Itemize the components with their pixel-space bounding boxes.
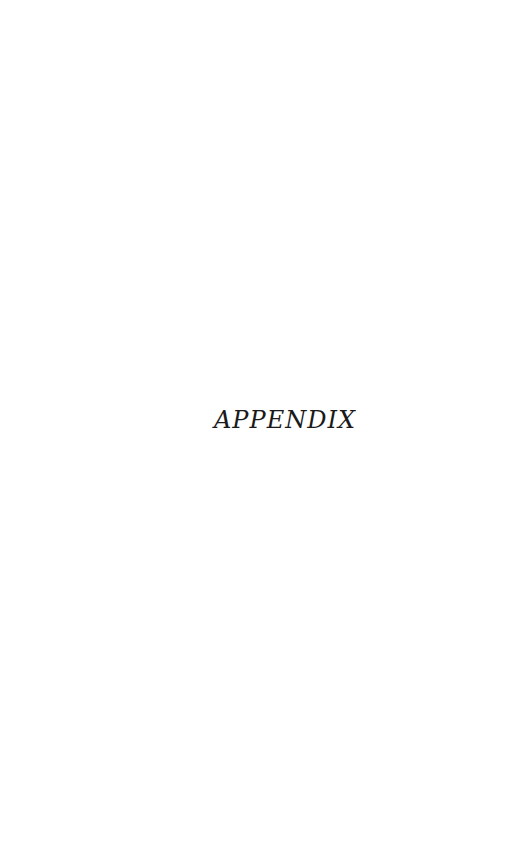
appendix-heading: APPENDIX <box>0 403 530 437</box>
document-page: APPENDIX <box>0 0 530 864</box>
